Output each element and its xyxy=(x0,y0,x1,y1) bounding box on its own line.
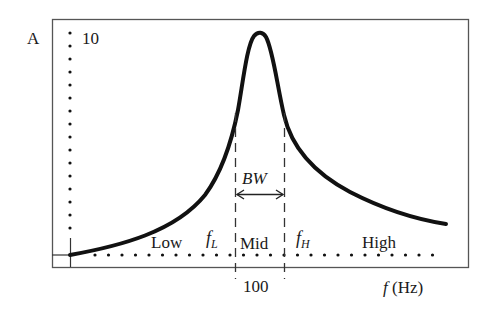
y-axis-label: A xyxy=(27,29,40,48)
bandpass-response-diagram: A 10 BW Low fL Mid fH High 100 f (Hz) xyxy=(0,0,490,311)
region-low-label: Low xyxy=(151,233,183,252)
response-curve xyxy=(70,33,446,255)
region-high-label: High xyxy=(362,233,397,252)
cutoff-high-label: fH xyxy=(296,228,311,251)
x-axis-label: f (Hz) xyxy=(383,278,423,297)
y-tick-label: 10 xyxy=(82,29,99,48)
center-frequency-label: 100 xyxy=(243,277,269,296)
cutoff-low-label: fL xyxy=(206,228,218,251)
plot-frame xyxy=(53,20,469,268)
bandwidth-label: BW xyxy=(242,169,268,188)
region-mid-label: Mid xyxy=(240,234,269,253)
